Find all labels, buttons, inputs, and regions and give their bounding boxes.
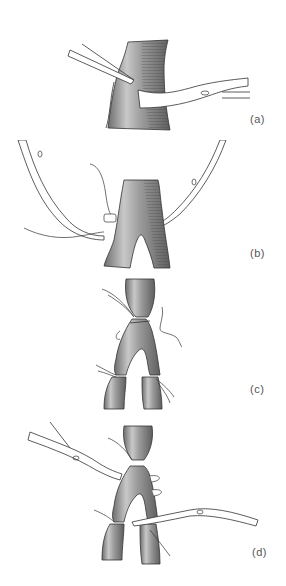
panel-c: (c) (0, 275, 286, 410)
panel-d: (d) (0, 410, 286, 586)
panel-b: (b) (0, 140, 286, 275)
panel-a: (a) (0, 0, 286, 140)
panel-label-b: (b) (250, 247, 265, 259)
ligated-bifurcation-illustration (0, 275, 286, 410)
clamped-vessel-illustration (0, 410, 286, 586)
vessel-ligature-illustration (0, 140, 286, 275)
panel-label-a: (a) (250, 113, 265, 125)
vessel-dissection-illustration (0, 0, 286, 140)
panel-label-c: (c) (250, 383, 264, 395)
panel-label-d: (d) (252, 546, 267, 558)
